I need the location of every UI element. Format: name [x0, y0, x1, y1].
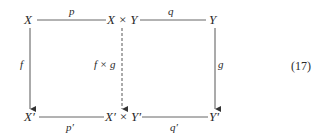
node-x: X [24, 13, 32, 26]
node-x-prime: X′ [24, 110, 35, 123]
node-y: Y [209, 13, 216, 26]
label-p-prime: p′ [66, 122, 74, 133]
diagram-canvas [0, 0, 334, 138]
label-p: p [69, 6, 75, 17]
equation-number: (17) [291, 60, 311, 72]
node-x-prime-times-y-prime: X′ × Y′ [105, 110, 141, 123]
label-f-times-g: f × g [94, 59, 115, 70]
node-x-times-y: X × Y [107, 13, 137, 26]
label-g: g [218, 59, 224, 70]
node-y-prime: Y′ [209, 110, 219, 123]
label-q: q [168, 6, 174, 17]
label-q-prime: q′ [170, 122, 178, 133]
label-f: f [20, 59, 23, 70]
